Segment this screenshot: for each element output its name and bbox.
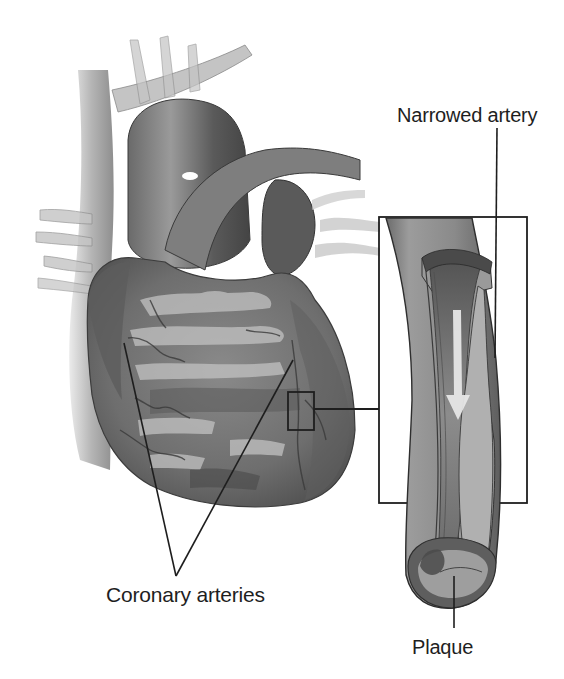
- heart-diagram: Narrowed artery Coronary arteries Plaque: [0, 0, 564, 679]
- coronary-arteries-label: Coronary arteries: [106, 584, 265, 605]
- diagram-illustration: [0, 0, 564, 679]
- plaque-label: Plaque: [412, 637, 473, 657]
- narrowed-artery-leader: [495, 128, 497, 358]
- artery-cross-section: [386, 218, 501, 608]
- artery-end-cap: [408, 538, 496, 608]
- heart: [87, 258, 355, 507]
- narrowed-artery-label: Narrowed artery: [397, 105, 537, 125]
